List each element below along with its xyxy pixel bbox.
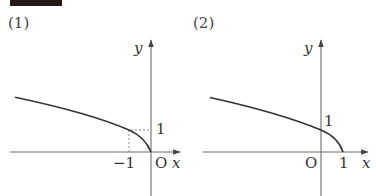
y-axis-label: y (133, 39, 143, 57)
tick-x-1: 1 (339, 154, 349, 172)
tick-y-1: 1 (156, 120, 166, 138)
tick-x-neg1: −1 (113, 154, 135, 172)
origin-label: O (155, 154, 167, 172)
panel-1-graph: y x O −1 1 (10, 39, 181, 196)
panel-2-graph: y x O 1 1 (203, 39, 371, 196)
curve-sqrt-neg-x (15, 97, 151, 152)
tick-y-1: 1 (324, 112, 334, 130)
guide-lines (129, 130, 151, 152)
graphs: y x O −1 1 y x O 1 1 (0, 0, 376, 196)
origin-label: O (305, 154, 317, 172)
x-axis-label: x (362, 154, 371, 172)
y-axis-label: y (303, 39, 313, 57)
x-axis-label: x (172, 154, 181, 172)
